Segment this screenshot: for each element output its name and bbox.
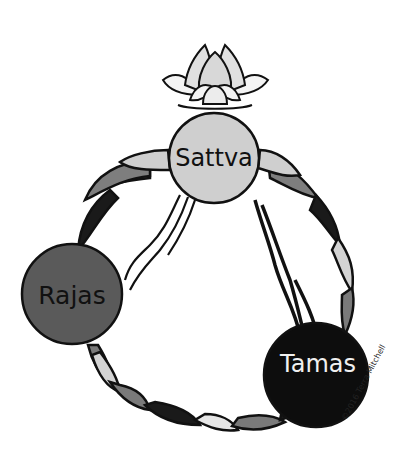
gunas-diagram: Sattva Rajas Tamas ©2016 Terra Mitchell [0,0,416,461]
sattva-label: Sattva [175,144,253,172]
sattva-arm-right [258,150,300,176]
stream-sattva-rajas [125,195,195,290]
lotus-icon [163,45,268,109]
tamas-label: Tamas [279,350,356,378]
rajas-label: Rajas [38,281,105,310]
stream-sattva-tamas [255,200,318,340]
sattva-arm-left [120,150,170,170]
